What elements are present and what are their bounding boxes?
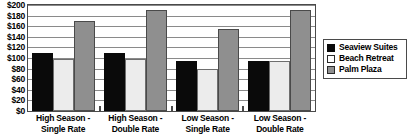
y-axis-tick-label: $180 <box>7 11 25 20</box>
axis-group-tick <box>242 106 244 111</box>
x-axis: High Season -Single RateHigh Season -Dou… <box>27 113 316 137</box>
legend-swatch-icon <box>327 66 335 74</box>
bar-palm-plaza[interactable] <box>290 10 311 111</box>
bar-group <box>100 5 172 111</box>
x-axis-label-line: High Season - <box>27 113 99 124</box>
legend: Seaview SuitesBeach RetreatPalm Plaza <box>323 39 407 79</box>
y-axis-tick-label: $40 <box>11 86 25 95</box>
y-axis: $200$180$160$140$120$100$80$60$40$20$0 <box>0 4 26 112</box>
axis-group-tick <box>99 106 101 111</box>
bar-beach-retreat[interactable] <box>197 69 218 111</box>
legend-swatch-icon <box>327 55 335 63</box>
bar-palm-plaza[interactable] <box>146 10 167 111</box>
axis-group-tick <box>171 106 173 111</box>
x-axis-label-line: Single Rate <box>172 124 244 135</box>
bar-chart: $200$180$160$140$120$100$80$60$40$20$0 H… <box>0 0 408 137</box>
x-axis-category-label: High Season -Double Rate <box>99 113 171 137</box>
legend-item[interactable]: Seaview Suites <box>327 42 403 53</box>
legend-item[interactable]: Beach Retreat <box>327 53 403 64</box>
y-axis-tick-label: $120 <box>7 43 25 52</box>
y-axis-tick-label: $140 <box>7 33 25 42</box>
bar-group <box>243 5 315 111</box>
x-axis-category-label: High Season -Single Rate <box>27 113 99 137</box>
bar-seaview-suites[interactable] <box>248 61 269 111</box>
bar-palm-plaza[interactable] <box>218 29 239 111</box>
bar-seaview-suites[interactable] <box>176 61 197 111</box>
bar-groups <box>28 5 315 111</box>
x-axis-category-label: Low Season -Double Rate <box>244 113 316 137</box>
legend-item[interactable]: Palm Plaza <box>327 64 403 75</box>
y-axis-tick-label: $60 <box>11 75 25 84</box>
bar-seaview-suites[interactable] <box>104 53 125 111</box>
bar-seaview-suites[interactable] <box>32 53 53 111</box>
legend-item-label: Beach Retreat <box>339 54 394 63</box>
x-axis-label-line: Double Rate <box>99 124 171 135</box>
bar-beach-retreat[interactable] <box>125 59 146 111</box>
x-axis-category-label: Low Season -Single Rate <box>172 113 244 137</box>
legend-item-label: Palm Plaza <box>339 65 381 74</box>
y-axis-tick-label: $200 <box>7 1 25 10</box>
x-axis-label-line: Single Rate <box>27 124 99 135</box>
legend-swatch-icon <box>327 44 335 52</box>
x-axis-label-line: Double Rate <box>244 124 316 135</box>
x-axis-label-line: Low Season - <box>172 113 244 124</box>
plot-area <box>27 4 316 112</box>
bar-group <box>28 5 100 111</box>
x-axis-label-line: Low Season - <box>244 113 316 124</box>
y-axis-tick-label: $100 <box>7 54 25 63</box>
x-axis-label-line: High Season - <box>99 113 171 124</box>
bar-group <box>172 5 244 111</box>
bar-beach-retreat[interactable] <box>53 59 74 111</box>
y-axis-tick-label: $0 <box>16 107 25 116</box>
y-axis-tick-label: $160 <box>7 22 25 31</box>
bar-beach-retreat[interactable] <box>269 61 290 111</box>
y-axis-tick-label: $80 <box>11 64 25 73</box>
y-axis-tick-label: $20 <box>11 96 25 105</box>
legend-item-label: Seaview Suites <box>339 43 398 52</box>
bar-palm-plaza[interactable] <box>74 21 95 111</box>
